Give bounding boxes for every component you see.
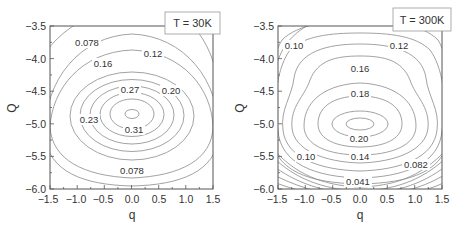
right-xtick-label: 1.0	[408, 193, 423, 205]
left-xtick-label: 1.0	[179, 193, 194, 205]
contour-label: 0.18	[351, 88, 370, 99]
contour-label: 0.16	[94, 58, 113, 69]
left-contours	[40, 8, 219, 186]
contour-label: 0.12	[144, 48, 163, 59]
right-ytick-label: −4.5	[253, 85, 274, 97]
left-xtick-label: −0.5	[93, 193, 114, 205]
right-xtick-label: −0.5	[321, 193, 342, 205]
contour-label: 0.31	[125, 124, 144, 135]
contour-label: 0.10	[297, 151, 316, 162]
left-contour-labels: 0.078 0.12 0.16 0.27 0.20 0.23 0.31 0.07…	[73, 37, 182, 176]
contour-label: 0.16	[351, 63, 370, 74]
right-xtick-label: −1.5	[267, 193, 288, 205]
right-xtick-label: 1.5	[435, 193, 450, 205]
left-ytick-label: −5.5	[25, 150, 46, 162]
left-ytick-label: −4.5	[25, 85, 46, 97]
contour-label: 0.041	[346, 176, 370, 187]
contour-label: 0.10	[285, 40, 304, 51]
left-ytick-label: −4.0	[25, 53, 46, 65]
left-xtick-label: −1.5	[38, 193, 59, 205]
right-contour-labels: 0.10 0.12 0.16 0.18 0.20 0.10 0.14 0.082…	[283, 40, 430, 187]
left-xtick-label: 1.5	[206, 193, 221, 205]
right-ytick-label: −3.5	[253, 20, 274, 32]
left-y-axis-label: Q	[5, 103, 19, 112]
right-x-axis-label: q	[357, 208, 364, 222]
contour-label: 0.23	[80, 114, 99, 125]
contour-label: 0.14	[351, 151, 370, 162]
left-x-axis-label: q	[129, 208, 136, 222]
left-ytick-label: −5.0	[25, 118, 46, 130]
left-legend-label: T = 30K	[173, 17, 212, 29]
contour-label: 0.078	[75, 37, 99, 48]
contour-label: 0.20	[162, 85, 181, 96]
right-legend-label: T = 300K	[400, 14, 445, 26]
right-contour-plot: −3.5 −4.0 −4.5 −5.0 −5.5 −6.0 −1.5 −1.0 …	[233, 8, 451, 222]
left-xtick-label: 0.5	[152, 193, 167, 205]
left-xtick-label: 0.0	[125, 193, 140, 205]
right-xtick-label: 0.0	[353, 193, 368, 205]
left-ytick-label: −3.5	[25, 20, 46, 32]
right-xtick-label: 0.5	[380, 193, 395, 205]
right-ytick-label: −4.0	[253, 53, 274, 65]
figure: −3.5 −4.0 −4.5 −5.0 −5.5 −6.0 −1.5 −1.0 …	[0, 0, 462, 234]
right-y-axis-label: Q	[233, 103, 247, 112]
contour-label: 0.078	[120, 165, 144, 176]
contour-label: 0.082	[404, 159, 428, 170]
left-contour-plot: −3.5 −4.0 −4.5 −5.0 −5.5 −6.0 −1.5 −1.0 …	[5, 8, 220, 222]
right-xtick-label: −1.0	[294, 193, 315, 205]
left-xtick-label: −1.0	[66, 193, 87, 205]
contour-label: 0.20	[350, 133, 369, 144]
contour-label: 0.12	[390, 40, 409, 51]
right-ytick-label: −5.0	[253, 118, 274, 130]
contour-label: 0.27	[121, 84, 140, 95]
right-ytick-label: −5.5	[253, 150, 274, 162]
